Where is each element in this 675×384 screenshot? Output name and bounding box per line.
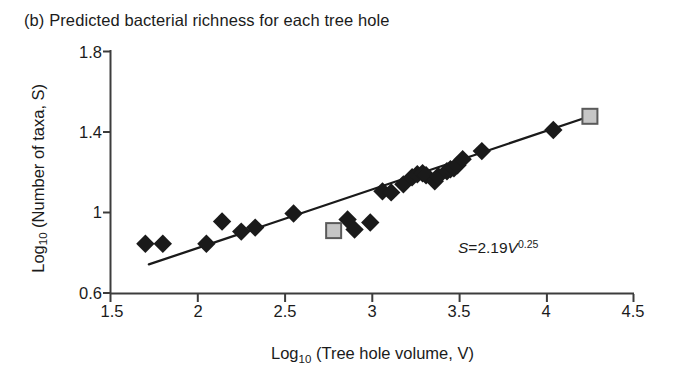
data-point-diamond (544, 121, 562, 139)
data-point-diamond (197, 234, 215, 252)
data-point-diamond (473, 142, 491, 160)
data-point-diamond (136, 234, 154, 252)
axis-lines (110, 50, 634, 294)
data-point-square (582, 109, 597, 124)
x-axis-tick-marks (111, 294, 634, 302)
plot-canvas (0, 0, 675, 384)
data-point-square (326, 223, 341, 238)
y-axis-tick-marks (103, 52, 110, 294)
figure-panel-b: (b) Predicted bacterial richness for eac… (0, 0, 675, 384)
data-point-diamond (284, 204, 302, 222)
data-point-diamond (232, 222, 250, 240)
data-point-diamond (361, 213, 379, 231)
data-point-diamond (154, 234, 172, 252)
data-point-diamond (246, 218, 264, 236)
data-series-diamonds (136, 121, 562, 253)
data-point-diamond (213, 212, 231, 230)
trend-line (149, 114, 595, 264)
